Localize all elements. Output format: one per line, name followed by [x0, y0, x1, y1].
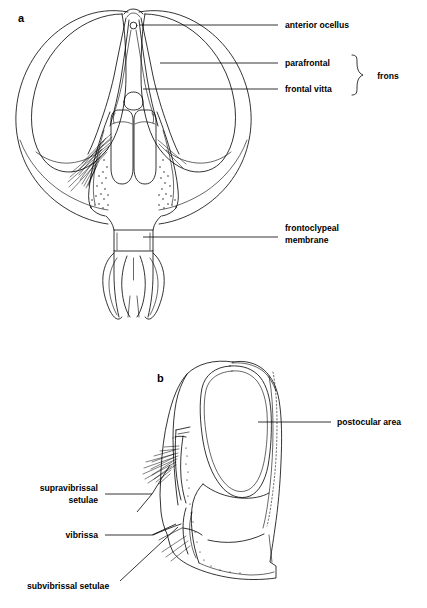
anatomical-figure: anterior ocellus parafrontal frontal vit…	[0, 0, 427, 608]
vertex-inner	[127, 13, 140, 17]
right-compound-eye	[141, 14, 236, 172]
label-frontal-vitta: frontal vitta	[285, 84, 332, 94]
proboscis-labellum-right	[145, 253, 164, 319]
left-gena-margin	[36, 150, 101, 163]
frons-brace	[352, 55, 363, 95]
label-frontoclypeal-membrane: frontoclypeal	[285, 223, 339, 233]
left-antenna-segment-line	[112, 122, 132, 124]
panel-letter-a: a	[18, 12, 25, 24]
antennal-base	[124, 92, 143, 110]
right-facial-ridge	[163, 130, 174, 204]
compound-eye-inner-rim	[204, 371, 267, 492]
head-outline-anterior	[16, 11, 251, 224]
right-antenna	[134, 110, 156, 184]
panel-letter-b: b	[157, 372, 164, 384]
frontal-step-inner	[178, 432, 189, 434]
left-parafrontal	[88, 18, 126, 154]
panel-b-drawing	[143, 361, 282, 579]
proboscis-stem-left	[128, 296, 130, 317]
right-antenna-segment-line	[135, 122, 155, 124]
parafacial-stipple	[185, 447, 240, 573]
leader-supravibrissal-setulae-tail2	[137, 494, 152, 512]
label-supravibrissal-setulae-line2: setulae	[68, 495, 98, 505]
frontoclypeal-membrane-shape	[106, 216, 161, 251]
postocular-inner-line	[263, 376, 273, 528]
mouth-margin-lateral	[183, 508, 188, 554]
label-postocular-area: postocular area	[337, 417, 401, 427]
left-lower-head-contour	[20, 140, 108, 210]
proboscis-stem-right	[137, 296, 139, 317]
label-vibrissa: vibrissa	[66, 530, 99, 540]
left-antenna	[111, 110, 133, 184]
left-compound-eye	[31, 14, 126, 172]
anterior-ocellus-circle	[130, 22, 137, 29]
right-parafrontal	[141, 18, 179, 154]
compound-eye-lateral	[200, 366, 271, 498]
figure-container: anterior ocellus parafrontal frontal vit…	[0, 0, 427, 608]
antennal-notch	[175, 436, 186, 437]
right-frons-inner	[136, 30, 154, 116]
occiput-lower-corner	[208, 534, 264, 542]
panel-b-annotations: postocular area supravibrissal setulae v…	[27, 372, 401, 591]
label-anterior-ocellus: anterior ocellus	[285, 20, 349, 30]
facial-plate-edge	[181, 436, 186, 503]
proboscis-labellum-left	[103, 253, 122, 319]
label-parafrontal: parafrontal	[285, 58, 330, 68]
label-supravibrissal-setulae-line1: supravibrissal	[40, 483, 98, 493]
right-gena-margin	[166, 150, 231, 163]
label-subvibrissal-setulae: subvibrissal setulae	[27, 581, 109, 591]
right-lower-head-contour	[159, 140, 247, 210]
proboscis-inner-right	[150, 258, 158, 315]
panel-a-drawing	[16, 9, 251, 319]
proboscis-inner-left	[109, 258, 117, 315]
left-facial-ridge	[93, 130, 104, 204]
label-frons: frons	[377, 71, 399, 81]
panel-a-annotations: anterior ocellus parafrontal frontal vit…	[18, 12, 399, 245]
frontal-step	[176, 427, 190, 430]
label-frontoclypeal-membrane-line2: membrane	[285, 235, 329, 245]
